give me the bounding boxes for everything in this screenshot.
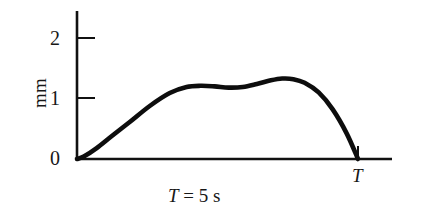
duration-caption: T = 5 s: [168, 186, 220, 205]
displacement-curve: [77, 78, 358, 159]
y-tick-label-0: 0: [36, 148, 60, 168]
caption-symbol: T: [168, 185, 179, 206]
figure-container: 2 1 0 mm T T = 5 s: [0, 0, 421, 218]
caption-unit: s: [208, 185, 220, 206]
caption-value: 5: [199, 185, 209, 206]
x-tick-label-T: T: [352, 166, 363, 185]
caption-equals: =: [179, 185, 199, 206]
y-axis-title: mm: [30, 78, 49, 108]
y-tick-label-2: 2: [36, 28, 60, 48]
